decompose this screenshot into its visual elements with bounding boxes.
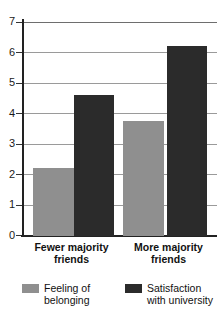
y-tick-label: 2 bbox=[0, 169, 15, 180]
legend-label-line2: belonging bbox=[44, 294, 90, 306]
plot-area bbox=[22, 18, 217, 236]
legend-label-line1: Satisfaction bbox=[147, 282, 201, 294]
legend-label-line1: Feeling of bbox=[44, 282, 90, 294]
y-tick-label: 5 bbox=[0, 77, 15, 88]
bar-fill bbox=[123, 121, 164, 235]
y-tick-label: 4 bbox=[0, 108, 15, 119]
y-tick-label: 3 bbox=[0, 138, 15, 149]
bar bbox=[167, 46, 207, 236]
bar bbox=[33, 168, 74, 236]
legend-item: Feeling ofbelonging bbox=[22, 282, 115, 306]
bar bbox=[123, 121, 164, 235]
x-axis-label-2: More majorityfriends bbox=[120, 241, 217, 271]
bar-fill bbox=[74, 95, 114, 236]
x-axis-category-labels: Fewer majorityfriendsMore majorityfriend… bbox=[23, 241, 217, 271]
legend-label: Satisfactionwith university bbox=[147, 282, 213, 306]
x-axis-label-1: Fewer majorityfriends bbox=[23, 241, 120, 271]
y-tick-label: 0 bbox=[0, 230, 15, 241]
y-tick-label: 1 bbox=[0, 199, 15, 210]
bar-chart: 01234567 Fewer majorityfriendsMore major… bbox=[0, 0, 221, 320]
bar-fill bbox=[33, 168, 74, 236]
legend-swatch-icon bbox=[125, 284, 142, 293]
bar bbox=[74, 95, 114, 236]
x-axis-label-line1: More majority bbox=[134, 241, 203, 253]
x-axis-label-line1: Fewer majority bbox=[34, 241, 108, 253]
x-axis-label-line2: friends bbox=[120, 253, 217, 265]
legend-swatch-icon bbox=[22, 284, 39, 293]
legend-label-line2: with university bbox=[147, 294, 213, 306]
y-tick-label: 7 bbox=[0, 16, 15, 27]
chart-legend: Feeling ofbelongingSatisfactionwith univ… bbox=[22, 282, 218, 306]
x-axis-label-line2: friends bbox=[23, 253, 120, 265]
legend-item: Satisfactionwith university bbox=[125, 282, 218, 306]
legend-label: Feeling ofbelonging bbox=[44, 282, 90, 306]
y-tick-label: 6 bbox=[0, 47, 15, 58]
bar-fill bbox=[167, 46, 207, 236]
